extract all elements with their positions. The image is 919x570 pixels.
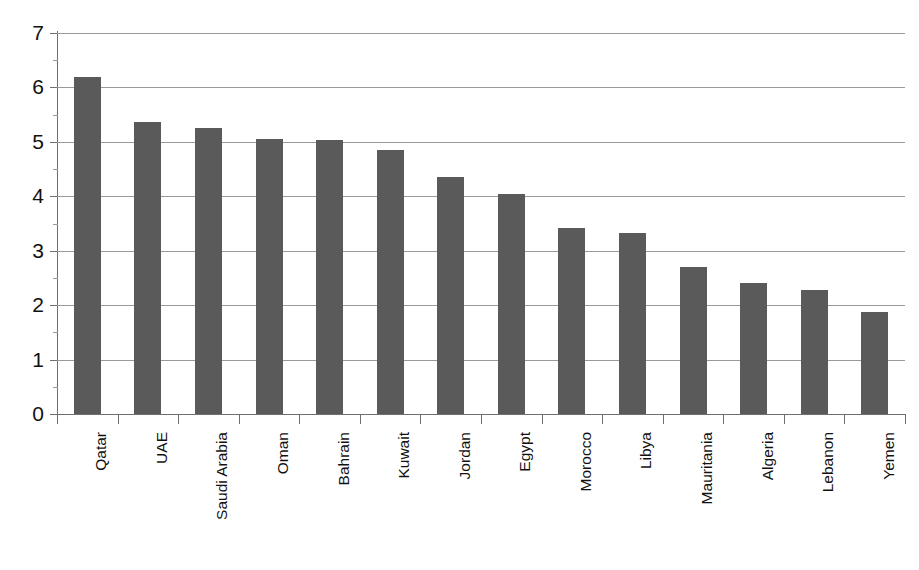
x-tick-mark [844,415,845,424]
y-tick-label: 3 [4,240,44,261]
y-tick-label: 2 [4,294,44,315]
x-axis-label: Bahrain [336,432,352,485]
x-axis-label: Mauritania [699,432,715,504]
x-tick-mark [905,415,906,424]
y-tick-label: 4 [4,185,44,206]
y-tick-label: 6 [4,76,44,97]
gridline [57,33,905,34]
y-tick-label: 1 [4,349,44,370]
x-axis-label: Lebanon [820,432,836,492]
x-tick-mark [784,415,785,424]
y-tick-label: 0 [4,403,44,424]
x-axis-label: Kuwait [396,432,412,479]
gridline [57,251,905,252]
x-axis-label: Qatar [93,432,109,471]
bar [740,283,767,414]
x-tick-mark [420,415,421,424]
plot-area [57,33,905,414]
x-tick-mark [481,415,482,424]
bar [134,122,161,414]
bar [619,233,646,414]
bar [680,267,707,414]
bar [801,290,828,414]
gridline [57,196,905,197]
bar [74,77,101,414]
chart-title-remnant [40,0,460,4]
bar [498,194,525,414]
x-axis-label: Saudi Arabia [214,432,230,520]
x-axis-label: Morocco [578,432,594,491]
x-axis-label: Jordan [457,432,473,479]
x-axis-label: Oman [275,432,291,474]
x-axis-label: Yemen [881,432,897,480]
bar [256,139,283,414]
x-axis-label: Egypt [517,432,533,472]
x-tick-mark [360,415,361,424]
bar-chart-figure: 01234567 QatarUAESaudi ArabiaOmanBahrain… [0,0,919,570]
x-tick-mark [57,415,58,424]
x-tick-mark [239,415,240,424]
x-tick-mark [663,415,664,424]
x-axis-label: UAE [154,432,170,464]
x-tick-mark [178,415,179,424]
bar [861,312,888,414]
y-tick-label: 7 [4,22,44,43]
bar [377,150,404,414]
x-tick-mark [723,415,724,424]
bar [558,228,585,414]
bar [195,128,222,414]
x-tick-mark [299,415,300,424]
gridline [57,305,905,306]
gridline [57,360,905,361]
x-axis-label: Algeria [760,432,776,480]
y-tick-label: 5 [4,131,44,152]
x-tick-mark [602,415,603,424]
gridline [57,142,905,143]
x-tick-mark [542,415,543,424]
gridline [57,87,905,88]
x-tick-mark [118,415,119,424]
bar [437,177,464,414]
bar [316,140,343,414]
x-axis-label: Libya [638,432,654,469]
